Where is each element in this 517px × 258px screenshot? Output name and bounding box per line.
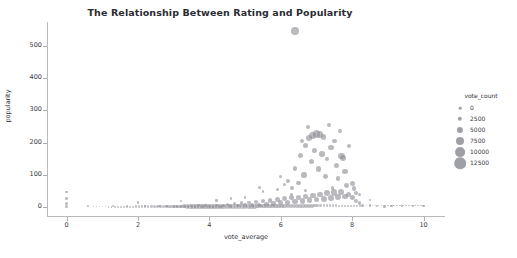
y-tick-label-wrap: 500 (0, 42, 42, 50)
scatter-point (293, 166, 297, 170)
size-legend: vote_count 02500500075001000012500 (452, 92, 514, 170)
legend-swatch (455, 147, 465, 157)
scatter-point (123, 206, 125, 208)
scatter-point (300, 198, 305, 203)
legend-label: 7500 (470, 138, 485, 144)
scatter-point (290, 186, 294, 190)
scatter-point (296, 181, 301, 186)
scatter-point (301, 172, 306, 177)
scatter-point (141, 205, 144, 208)
x-tick-label: 4 (197, 222, 221, 229)
scatter-point (306, 125, 310, 129)
x-tick-label: 0 (55, 222, 79, 229)
scatter-point (347, 144, 351, 148)
legend-label: 12500 (470, 160, 489, 166)
y-tick-label: 300 (16, 106, 42, 113)
legend-title: vote_count (452, 92, 510, 99)
scatter-point (291, 27, 299, 35)
x-tick-label: 6 (269, 222, 293, 229)
scatter-point (126, 206, 128, 208)
legend-swatch (458, 117, 462, 121)
scatter-point (328, 145, 334, 151)
scatter-point (276, 188, 279, 191)
x-tick-label: 8 (340, 222, 364, 229)
legend-entry[interactable]: 12500 (452, 157, 510, 168)
y-tick-label: 400 (16, 74, 42, 81)
x-tick-label: 10 (412, 222, 436, 229)
plot-area (47, 22, 445, 216)
legend-entry[interactable]: 2500 (452, 113, 510, 124)
scatter-point (336, 176, 341, 181)
scatter-point (298, 153, 303, 158)
x-axis-line (47, 216, 445, 217)
scatter-chart-figure: The Relationship Between Rating and Popu… (0, 0, 517, 258)
scatter-point (135, 205, 137, 207)
legend-swatch (459, 107, 462, 110)
scatter-point (316, 166, 321, 171)
y-tick-label-wrap: 100 (0, 171, 42, 179)
scatter-point (230, 197, 232, 199)
x-tick-label: 2 (126, 222, 150, 229)
scatter-point (290, 193, 293, 196)
scatter-point (319, 151, 325, 157)
scatter-point (258, 186, 261, 189)
scatter-point (312, 148, 317, 153)
legend-swatch (454, 157, 466, 169)
y-tick-label-wrap: 200 (0, 139, 42, 147)
scatter-point (344, 183, 349, 188)
scatter-point (334, 163, 339, 168)
legend-swatch (456, 137, 464, 145)
chart-title: The Relationship Between Rating and Popu… (0, 7, 440, 18)
legend-entry[interactable]: 0 (452, 102, 510, 113)
scatter-point (117, 206, 119, 208)
scatter-point (352, 186, 356, 190)
y-tick-label: 100 (16, 171, 42, 178)
scatter-point (331, 186, 335, 190)
legend-label: 5000 (470, 127, 485, 133)
scatter-point (321, 196, 327, 202)
scatter-point (215, 199, 217, 201)
scatter-point (321, 134, 326, 139)
scatter-point (307, 197, 313, 203)
legend-entry[interactable]: 10000 (452, 146, 510, 157)
scatter-point (132, 206, 134, 208)
scatter-point (138, 205, 141, 208)
scatter-point (120, 206, 122, 208)
scatter-point (342, 169, 347, 174)
legend-entry[interactable]: 5000 (452, 124, 510, 135)
legend-swatch (457, 127, 463, 133)
scatter-point (286, 179, 290, 183)
y-tick-label: 200 (16, 139, 42, 146)
legend-entry[interactable]: 7500 (452, 135, 510, 146)
scatter-point (323, 174, 328, 179)
scatter-point (65, 197, 68, 200)
scatter-point (114, 206, 116, 208)
scatter-point (129, 206, 131, 208)
y-tick-label: 500 (16, 42, 42, 49)
y-axis-label: popularity (4, 76, 12, 136)
y-tick-label: 0 (16, 203, 42, 210)
x-axis-label: vote_average (47, 233, 445, 241)
legend-label: 0 (470, 105, 474, 111)
y-tick-label-wrap: 0 (0, 203, 42, 211)
legend-label: 10000 (470, 149, 489, 155)
scatter-point (332, 139, 337, 144)
legend-label: 2500 (470, 116, 485, 122)
scatter-point (137, 201, 139, 203)
